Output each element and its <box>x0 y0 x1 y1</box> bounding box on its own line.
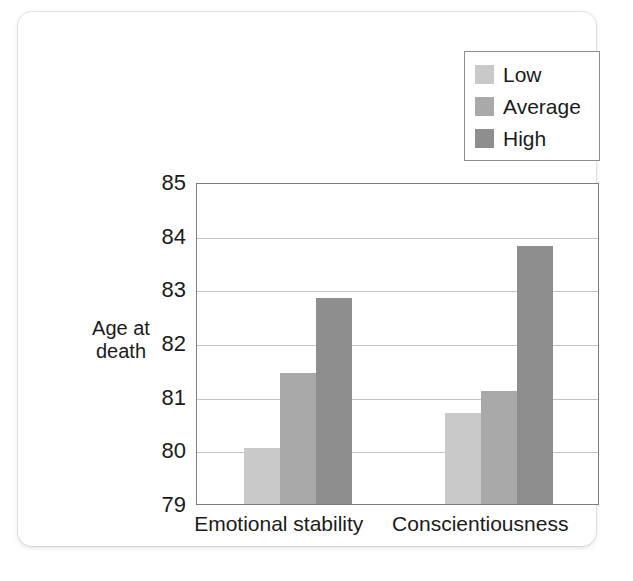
legend-item-low: Low <box>475 61 581 87</box>
bar <box>517 246 553 504</box>
bar <box>316 298 352 504</box>
legend-swatch-average <box>475 97 494 116</box>
legend-swatch-high <box>475 129 494 148</box>
legend-item-high: High <box>475 125 581 151</box>
x-axis-label-1: Conscientiousness <box>392 512 568 536</box>
legend-label-average: Average <box>503 96 581 117</box>
legend-item-average: Average <box>475 93 581 119</box>
y-tick-label-80: 80 <box>126 438 186 464</box>
plot-area <box>196 183 599 505</box>
bars-layer <box>197 184 598 504</box>
chart-card: Low Average High Age at death 8584838281… <box>18 12 596 546</box>
chart-legend: Low Average High <box>464 51 600 161</box>
x-axis-label-0: Emotional stability <box>194 512 363 536</box>
y-tick-label-83: 83 <box>126 277 186 303</box>
bar <box>244 448 280 504</box>
bar <box>445 413 481 504</box>
y-tick-label-81: 81 <box>126 385 186 411</box>
bar <box>280 373 316 504</box>
y-tick-label-85: 85 <box>126 170 186 196</box>
y-tick-label-82: 82 <box>126 331 186 357</box>
legend-label-low: Low <box>503 64 542 85</box>
bar <box>481 391 517 504</box>
legend-label-high: High <box>503 128 546 149</box>
y-tick-label-79: 79 <box>126 492 186 518</box>
legend-swatch-low <box>475 65 494 84</box>
y-tick-label-84: 84 <box>126 224 186 250</box>
